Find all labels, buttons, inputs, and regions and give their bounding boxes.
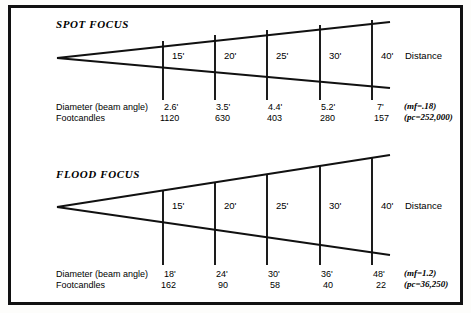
- spot-footcandles-value-30: 280: [320, 113, 335, 123]
- flood-distance-label-15: 15': [172, 200, 184, 211]
- spot-diameter-row-label: Diameter (beam angle): [56, 102, 148, 112]
- flood-footcandles-value-15: 162: [161, 280, 176, 290]
- flood-diameter-value-40: 48': [373, 269, 385, 279]
- beam-diagram: [0, 0, 471, 313]
- flood-diameter-row-label: Diameter (beam angle): [56, 269, 148, 279]
- flood-diameter-value-25: 30': [268, 269, 280, 279]
- flood-footcandles-row-label: Footcandles: [56, 280, 105, 290]
- spot-diameter-value-15: 2.6': [164, 102, 178, 112]
- spot-footcandles-value-40: 157: [374, 113, 389, 123]
- flood-peak-candela-note: (pc=36,250): [404, 279, 448, 289]
- spot-distance-label-30: 30': [329, 50, 341, 61]
- flood-distance-ticks: [163, 158, 372, 265]
- flood-distance-label-40: 40': [381, 200, 393, 211]
- flood-footcandles-value-30: 40: [323, 280, 333, 290]
- flood-footcandles-value-40: 22: [376, 280, 386, 290]
- flood-distance-axis-caption: Distance: [405, 200, 442, 211]
- spot-diameter-value-20: 3.5': [216, 102, 230, 112]
- spot-peak-candela-note: (pc=252,000): [404, 112, 453, 122]
- spot-diameter-value-30: 5.2': [321, 102, 335, 112]
- spot-focus-title: SPOT FOCUS: [56, 18, 129, 30]
- spot-multiplying-factor-note: (mf=.18): [404, 101, 436, 111]
- spot-footcandles-row-label: Footcandles: [56, 113, 105, 123]
- flood-focus-title: FLOOD FOCUS: [56, 168, 140, 180]
- flood-diameter-value-30: 36': [321, 269, 333, 279]
- spot-distance-label-25: 25': [276, 50, 288, 61]
- spot-diameter-value-25: 4.4': [268, 102, 282, 112]
- spot-footcandles-value-15: 1120: [160, 113, 179, 123]
- flood-multiplying-factor-note: (mf=1.2): [404, 268, 436, 278]
- spot-diameter-value-40: 7': [377, 102, 384, 112]
- spot-distance-label-15: 15': [172, 50, 184, 61]
- spot-footcandles-value-25: 403: [267, 113, 282, 123]
- figure-page: SPOT FOCUS 15' 20' 25' 30' 40' Distance …: [0, 0, 471, 313]
- spot-footcandles-value-20: 630: [215, 113, 230, 123]
- flood-distance-label-20: 20': [224, 200, 236, 211]
- flood-distance-label-25: 25': [276, 200, 288, 211]
- spot-distance-axis-caption: Distance: [405, 50, 442, 61]
- flood-diameter-value-15: 18': [164, 269, 176, 279]
- flood-footcandles-value-20: 90: [218, 280, 228, 290]
- flood-distance-label-30: 30': [329, 200, 341, 211]
- flood-diameter-value-20: 24': [216, 269, 228, 279]
- spot-distance-label-20: 20': [224, 50, 236, 61]
- spot-distance-label-40: 40': [381, 50, 393, 61]
- flood-footcandles-value-25: 58: [270, 280, 280, 290]
